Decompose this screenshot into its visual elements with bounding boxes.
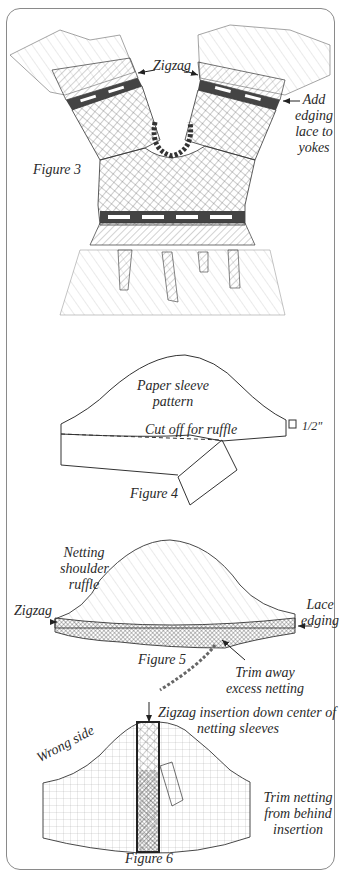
figure3-zigzag-label: Zigzag <box>153 58 191 74</box>
figure5-zigzag-label: Zigzag <box>14 603 52 619</box>
pattern-line-2: pattern <box>128 394 218 410</box>
add-edging-line-3: lace to <box>290 124 338 140</box>
figure4-caption: Figure 4 <box>130 486 178 502</box>
trim-line-1: Trim away <box>210 665 320 681</box>
figure4-measure-label: 1/2" <box>302 418 322 434</box>
pattern-line-1: Paper sleeve <box>128 378 218 394</box>
trim-netting-line-3: insertion <box>258 822 338 838</box>
netting-line-3: ruffle <box>60 577 108 593</box>
figure4-pattern-label: Paper sleeve pattern <box>128 378 218 410</box>
figure5-netting-label: Netting shoulder ruffle <box>60 545 108 593</box>
trim-netting-line-1: Trim netting <box>258 790 338 806</box>
figure4-cut-label: Cut off for ruffle <box>145 422 237 438</box>
add-edging-line-2: edging <box>290 108 338 124</box>
figure3-add-edging-label: Add edging lace to yokes <box>290 92 338 156</box>
add-edging-line-1: Add <box>290 92 338 108</box>
add-edging-line-4: yokes <box>290 140 338 156</box>
trim-line-2: excess netting <box>210 681 320 697</box>
figure6-trim-label: Trim netting from behind insertion <box>258 790 338 838</box>
figure6-insertion-label: Zigzag insertion down center of netting … <box>158 705 318 737</box>
figure6-caption: Figure 6 <box>125 851 173 867</box>
insertion-line-1: Zigzag insertion down center of <box>158 705 318 721</box>
netting-line-1: Netting <box>60 545 108 561</box>
lace-line-1: Lace <box>300 597 340 613</box>
figure5-lace-label: Lace edging <box>300 597 340 629</box>
trim-netting-line-2: from behind <box>258 806 338 822</box>
figure5-caption: Figure 5 <box>138 652 186 668</box>
insertion-line-2: netting sleeves <box>158 721 318 737</box>
netting-line-2: shoulder <box>60 561 108 577</box>
figure3-caption: Figure 3 <box>33 162 81 178</box>
lace-line-2: edging <box>300 613 340 629</box>
figure5-trim-label: Trim away excess netting <box>210 665 320 697</box>
